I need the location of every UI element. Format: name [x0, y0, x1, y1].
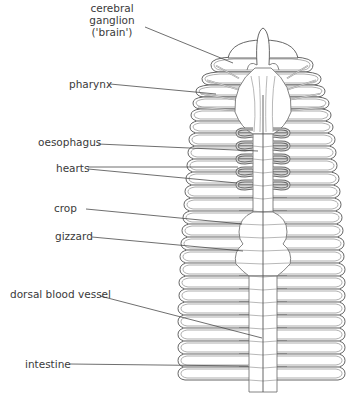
labels: cerebralganglion('brain')pharynxoesophag…	[10, 2, 135, 370]
pharynx-label: pharynx	[69, 78, 112, 90]
cerebral-ganglion-label: cerebralganglion('brain')	[89, 2, 134, 38]
gizzard-label: gizzard	[55, 230, 93, 242]
crop-label: crop	[54, 202, 77, 214]
cerebral-ganglion-leader	[145, 27, 233, 63]
dorsal-blood-vessel-label: dorsal blood vessel	[10, 288, 111, 300]
oesophagus-label: oesophagus	[38, 136, 101, 148]
hearts-label: hearts	[56, 162, 89, 174]
cerebral-ganglion	[257, 28, 270, 65]
intestine-label: intestine	[25, 358, 71, 370]
earthworm-anatomy-diagram: cerebralganglion('brain')pharynxoesophag…	[0, 0, 352, 395]
